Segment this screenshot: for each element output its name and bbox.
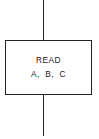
incoming-flow-line bbox=[43, 0, 44, 40]
block-label-read: READ bbox=[9, 56, 87, 65]
block-label-variables: A, B, C bbox=[9, 70, 87, 79]
outgoing-flow-line bbox=[43, 95, 44, 136]
read-process-block: READ A, B, C bbox=[5, 40, 92, 95]
